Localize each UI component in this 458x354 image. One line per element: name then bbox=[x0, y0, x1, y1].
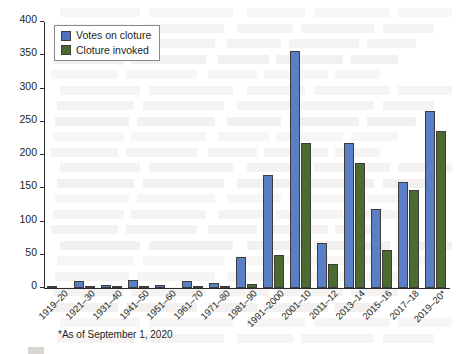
legend-label: Cloture invoked bbox=[76, 45, 149, 57]
bar-group bbox=[44, 22, 71, 288]
chart-legend: Votes on clotureCloture invoked bbox=[54, 25, 160, 61]
legend-label: Votes on cloture bbox=[76, 30, 151, 42]
y-axis-tick-label: 250 bbox=[19, 114, 37, 125]
legend-swatch-invoked bbox=[61, 45, 71, 55]
y-axis-tick-label: 150 bbox=[19, 180, 37, 191]
page-edge-artifact bbox=[28, 347, 44, 354]
bar-group bbox=[71, 22, 98, 288]
bar-group bbox=[179, 22, 206, 288]
bar-group bbox=[341, 22, 368, 288]
y-axis-tick-label: 100 bbox=[19, 214, 37, 225]
bar-votes-on-cloture bbox=[425, 111, 435, 288]
bar-group bbox=[152, 22, 179, 288]
bar-group bbox=[98, 22, 125, 288]
chart-footnote: *As of September 1, 2020 bbox=[58, 329, 173, 340]
legend-swatch-votes bbox=[61, 31, 71, 41]
y-axis-tick-label: 350 bbox=[19, 47, 37, 58]
y-axis-tick-label: 0 bbox=[31, 280, 37, 291]
y-axis-tick-label: 200 bbox=[19, 147, 37, 158]
bar-votes-on-cloture bbox=[290, 51, 300, 288]
cloture-votes-bar-chart: 050100150200250300350400 1919–201921–301… bbox=[0, 0, 458, 354]
bar-group bbox=[287, 22, 314, 288]
bar-group bbox=[395, 22, 422, 288]
bar-group bbox=[368, 22, 395, 288]
legend-item: Cloture invoked bbox=[61, 45, 151, 57]
bar-group bbox=[314, 22, 341, 288]
plot-area bbox=[44, 22, 449, 288]
bar-group bbox=[233, 22, 260, 288]
bar-group bbox=[125, 22, 152, 288]
y-axis-tick-label: 300 bbox=[19, 81, 37, 92]
bar-group bbox=[206, 22, 233, 288]
y-axis-tick-label: 50 bbox=[25, 247, 37, 258]
y-axis-tick-label: 400 bbox=[19, 14, 37, 25]
legend-item: Votes on cloture bbox=[61, 30, 151, 42]
bar-group bbox=[422, 22, 449, 288]
bar-votes-on-cloture bbox=[47, 286, 57, 288]
bar-group bbox=[260, 22, 287, 288]
bar-cloture-invoked bbox=[436, 131, 446, 288]
